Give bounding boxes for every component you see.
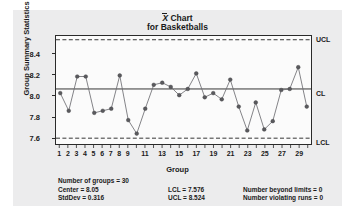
ucl-label: UCL — [316, 36, 330, 43]
data-point — [160, 81, 164, 85]
data-point — [126, 118, 130, 122]
data-point — [186, 87, 190, 91]
data-point — [101, 109, 105, 113]
data-point — [296, 65, 300, 69]
data-point — [279, 88, 283, 92]
stat-violating-runs: Number violating runs = 0 — [243, 194, 323, 203]
series-line — [60, 67, 307, 133]
x-tick-label-25: 25 — [259, 150, 271, 157]
data-point — [177, 93, 181, 97]
data-point — [152, 83, 156, 87]
statistics-footer: Number of groups = 30 Center = 8.05 StdD… — [13, 177, 342, 205]
x-tick-label-21: 21 — [225, 150, 237, 157]
stat-center: Center = 8.05 — [58, 186, 129, 195]
data-point — [58, 91, 62, 95]
data-point — [67, 109, 71, 113]
data-point — [245, 129, 249, 133]
stat-lcl: LCL = 7.576 — [168, 186, 205, 195]
overbar — [162, 13, 167, 14]
data-point — [75, 75, 79, 79]
data-point — [271, 119, 275, 123]
chart-title-line2: for Basketballs — [13, 23, 342, 32]
y-tick-label-8.2: 8.2 — [0, 71, 40, 80]
y-tick-label-8.4: 8.4 — [0, 50, 40, 59]
data-point — [169, 85, 173, 89]
cl-label: CL — [316, 90, 325, 97]
data-point — [118, 74, 122, 78]
stat-stddev: StdDev = 0.316 — [58, 194, 129, 203]
y-tick-label-8.0: 8.0 — [0, 92, 40, 101]
data-point — [109, 107, 113, 111]
control-chart-figure: X Chart for Basketballs Group Summary St… — [0, 0, 354, 215]
x-tick-label-17: 17 — [190, 150, 202, 157]
chart-panel: X Chart for Basketballs Group Summary St… — [13, 10, 342, 206]
data-point — [211, 91, 215, 95]
lcl-label: LCL — [316, 139, 330, 146]
series-plot — [56, 36, 311, 144]
data-point — [262, 128, 266, 132]
stat-ucl: UCL = 8.524 — [168, 194, 205, 203]
plot-area — [55, 35, 312, 145]
x-tick-label-29: 29 — [293, 150, 305, 157]
x-tick-label-13: 13 — [156, 150, 168, 157]
y-tick-label-7.8: 7.8 — [0, 113, 40, 122]
data-point — [220, 97, 224, 101]
data-point — [305, 105, 309, 109]
x-axis-label: Group — [13, 165, 342, 174]
data-point — [92, 111, 96, 115]
x-tick-label-19: 19 — [207, 150, 219, 157]
chart-title: X Chart for Basketballs — [13, 14, 342, 32]
data-point — [254, 101, 258, 105]
stats-column-right: Number beyond limits = 0 Number violatin… — [243, 186, 323, 203]
x-tick-label-11: 11 — [139, 150, 151, 157]
x-bar-symbol: X — [162, 14, 168, 23]
data-point — [194, 72, 198, 76]
data-point — [288, 87, 292, 91]
data-point — [135, 132, 139, 136]
stat-number-of-groups: Number of groups = 30 — [58, 177, 129, 186]
stats-column-middle: LCL = 7.576 UCL = 8.524 — [168, 186, 205, 203]
x-symbol-text: X — [162, 13, 168, 23]
x-tick-label-23: 23 — [242, 150, 254, 157]
stat-beyond-limits: Number beyond limits = 0 — [243, 186, 323, 195]
data-point — [203, 95, 207, 99]
y-tick-label-7.6: 7.6 — [0, 134, 40, 143]
data-point — [237, 105, 241, 109]
stats-column-left: Number of groups = 30 Center = 8.05 StdD… — [58, 177, 129, 203]
x-tick-label-9: 9 — [122, 150, 134, 157]
data-point — [143, 107, 147, 111]
data-point — [84, 75, 88, 79]
x-tick-label-27: 27 — [276, 150, 288, 157]
data-point — [228, 78, 232, 82]
x-tick-label-15: 15 — [173, 150, 185, 157]
